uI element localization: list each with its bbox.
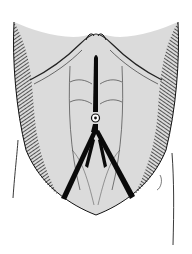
anatomical-illustration xyxy=(0,0,192,254)
umbilicus xyxy=(92,114,100,122)
abdomen-engraving xyxy=(0,0,192,254)
